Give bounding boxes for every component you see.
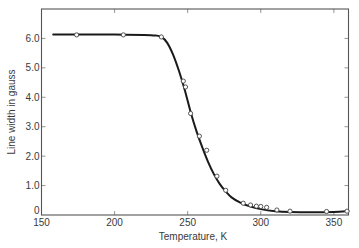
x-tick-label: 300 bbox=[252, 217, 269, 228]
y-tick-label: 2.0 bbox=[26, 151, 40, 162]
x-tick-label: 150 bbox=[33, 217, 50, 228]
data-point-marker bbox=[345, 209, 349, 213]
y-tick-label: 5.0 bbox=[26, 62, 40, 73]
x-tick-labels: 150200250300350 bbox=[33, 217, 343, 228]
data-point-marker bbox=[215, 174, 219, 178]
y-tick-label: 1.0 bbox=[26, 180, 40, 191]
y-axis-label: Line width in gauss bbox=[6, 69, 17, 154]
y-tick-label: 6.0 bbox=[26, 33, 40, 44]
plot-frame bbox=[42, 9, 349, 215]
x-tick-label: 350 bbox=[326, 217, 343, 228]
fitted-curve bbox=[53, 35, 348, 213]
data-point-marker bbox=[265, 205, 269, 209]
data-point-marker bbox=[224, 188, 228, 192]
data-point-marker bbox=[259, 204, 263, 208]
data-point-marker bbox=[159, 35, 163, 39]
data-point-marker bbox=[324, 209, 328, 213]
data-points bbox=[74, 33, 349, 214]
data-point-marker bbox=[181, 79, 185, 83]
y-tick-label: 4.0 bbox=[26, 92, 40, 103]
data-point-marker bbox=[275, 208, 279, 212]
x-axis-label: Temperature, K bbox=[159, 231, 228, 242]
axis-ticks bbox=[42, 9, 349, 215]
x-tick-label: 250 bbox=[179, 217, 196, 228]
data-point-marker bbox=[183, 85, 187, 89]
data-point-marker bbox=[205, 148, 209, 152]
x-tick-label: 200 bbox=[106, 217, 123, 228]
data-point-marker bbox=[189, 111, 193, 115]
data-point-marker bbox=[74, 33, 78, 37]
data-point-marker bbox=[288, 209, 292, 213]
y-tick-label: 3.0 bbox=[26, 121, 40, 132]
line-width-vs-temperature-chart: 150200250300350 01.02.03.04.05.06.0 Temp… bbox=[0, 0, 359, 248]
y-tick-labels: 01.02.03.04.05.06.0 bbox=[26, 33, 40, 216]
data-point-marker bbox=[248, 203, 252, 207]
data-point-marker bbox=[241, 201, 245, 205]
data-point-marker bbox=[197, 134, 201, 138]
data-point-marker bbox=[254, 204, 258, 208]
y-tick-label: 0 bbox=[34, 205, 40, 216]
data-point-marker bbox=[121, 33, 125, 37]
